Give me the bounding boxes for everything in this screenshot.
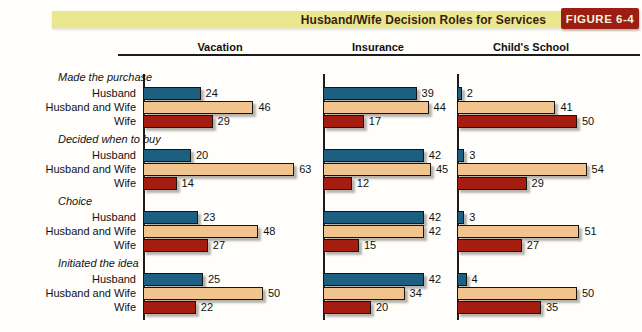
value-label: 25 — [208, 273, 220, 286]
value-label: 4 — [472, 273, 478, 286]
bar-row-husband: Husband20423 — [0, 148, 642, 162]
bar-wife — [323, 301, 371, 314]
panel-cell: 14 — [143, 176, 323, 190]
panel-cell: 35 — [457, 300, 642, 314]
value-label: 24 — [206, 87, 218, 100]
panel-cell: 20 — [323, 300, 457, 314]
bar-wife — [323, 115, 364, 128]
bar-row-husband-and-wife: Husband and Wife464441 — [0, 100, 642, 114]
panel-cell: 22 — [143, 300, 323, 314]
column-header-insurance: Insurance — [352, 41, 404, 53]
bar-wife — [143, 301, 196, 314]
value-label: 20 — [376, 301, 388, 314]
bar-husband-and-wife — [323, 163, 431, 176]
bar-husband — [143, 149, 191, 162]
bar-husband — [143, 211, 198, 224]
series-label: Husband and Wife — [0, 100, 143, 114]
header-rule — [118, 54, 640, 56]
panel-cell: 42 — [323, 272, 457, 286]
value-label: 27 — [213, 239, 225, 252]
panel-cell: 45 — [323, 162, 457, 176]
bar-row-wife: Wife222035 — [0, 300, 642, 314]
panel-cell: 63 — [143, 162, 323, 176]
series-label: Husband — [0, 86, 143, 100]
bar-row-wife: Wife141229 — [0, 176, 642, 190]
bar-husband — [323, 149, 424, 162]
bar-wife — [457, 239, 522, 252]
value-label: 15 — [364, 239, 376, 252]
panel-cell: 42 — [323, 210, 457, 224]
panel-cell: 20 — [143, 148, 323, 162]
panel-cell: 27 — [143, 238, 323, 252]
bar-wife — [457, 301, 541, 314]
panel-cell: 34 — [323, 286, 457, 300]
bar-husband-and-wife — [323, 101, 429, 114]
bar-row-wife: Wife291750 — [0, 114, 642, 128]
bar-husband — [457, 273, 467, 286]
panel-cell: 17 — [323, 114, 457, 128]
value-label: 45 — [436, 163, 448, 176]
value-label: 42 — [429, 149, 441, 162]
panel-cell: 39 — [323, 86, 457, 100]
bar-husband — [457, 211, 464, 224]
panel-cell: 25 — [143, 272, 323, 286]
series-label: Husband and Wife — [0, 286, 143, 300]
bar-husband-and-wife — [457, 163, 587, 176]
value-label: 29 — [532, 177, 544, 190]
bar-husband — [457, 149, 464, 162]
panel-cell: 42 — [323, 224, 457, 238]
value-label: 44 — [434, 101, 446, 114]
value-label: 3 — [469, 211, 475, 224]
value-label: 46 — [258, 101, 270, 114]
value-label: 2 — [467, 87, 473, 100]
value-label: 50 — [582, 115, 594, 128]
group-heading: Initiated the idea — [0, 256, 642, 272]
decision-role-group: Decided when to buyHusband20423Husband a… — [0, 132, 642, 190]
bar-husband — [143, 87, 201, 100]
value-label: 20 — [196, 149, 208, 162]
panel-cell: 44 — [323, 100, 457, 114]
panel-cell: 27 — [457, 238, 642, 252]
bar-husband-and-wife — [323, 287, 405, 300]
series-label: Wife — [0, 300, 143, 314]
bar-row-husband: Husband23423 — [0, 210, 642, 224]
panel-cell: 42 — [323, 148, 457, 162]
series-label: Husband and Wife — [0, 162, 143, 176]
value-label: 50 — [268, 287, 280, 300]
decision-role-group: Made the purchaseHusband24392Husband and… — [0, 70, 642, 128]
value-label: 22 — [201, 301, 213, 314]
group-heading: Decided when to buy — [0, 132, 642, 148]
value-label: 35 — [546, 301, 558, 314]
series-label: Husband and Wife — [0, 224, 143, 238]
bar-husband-and-wife — [457, 225, 579, 238]
bar-wife — [143, 177, 177, 190]
series-label: Husband — [0, 210, 143, 224]
bar-husband-and-wife — [143, 287, 263, 300]
value-label: 17 — [369, 115, 381, 128]
figure-6-4-chart: Husband/Wife Decision Roles for Services… — [0, 0, 642, 332]
group-heading: Choice — [0, 194, 642, 210]
bar-husband — [457, 87, 462, 100]
value-label: 54 — [592, 163, 604, 176]
panel-cell: 2 — [457, 86, 642, 100]
value-label: 27 — [527, 239, 539, 252]
bar-row-wife: Wife271527 — [0, 238, 642, 252]
bar-wife — [457, 115, 577, 128]
figure-number-badge: FIGURE 6-4 — [561, 8, 639, 29]
panel-cell: 23 — [143, 210, 323, 224]
figure-number-label: FIGURE 6-4 — [566, 13, 634, 25]
value-label: 34 — [410, 287, 422, 300]
bar-husband — [323, 211, 424, 224]
panel-cell: 4 — [457, 272, 642, 286]
value-label: 14 — [182, 177, 194, 190]
decision-role-group: ChoiceHusband23423Husband and Wife484251… — [0, 194, 642, 252]
bar-row-husband-and-wife: Husband and Wife484251 — [0, 224, 642, 238]
bar-husband-and-wife — [143, 225, 258, 238]
bar-row-husband-and-wife: Husband and Wife503450 — [0, 286, 642, 300]
bar-wife — [323, 177, 352, 190]
panel-cell: 54 — [457, 162, 642, 176]
series-label: Wife — [0, 114, 143, 128]
value-label: 39 — [422, 87, 434, 100]
panel-cell: 29 — [457, 176, 642, 190]
chart-body: Made the purchaseHusband24392Husband and… — [0, 70, 642, 318]
